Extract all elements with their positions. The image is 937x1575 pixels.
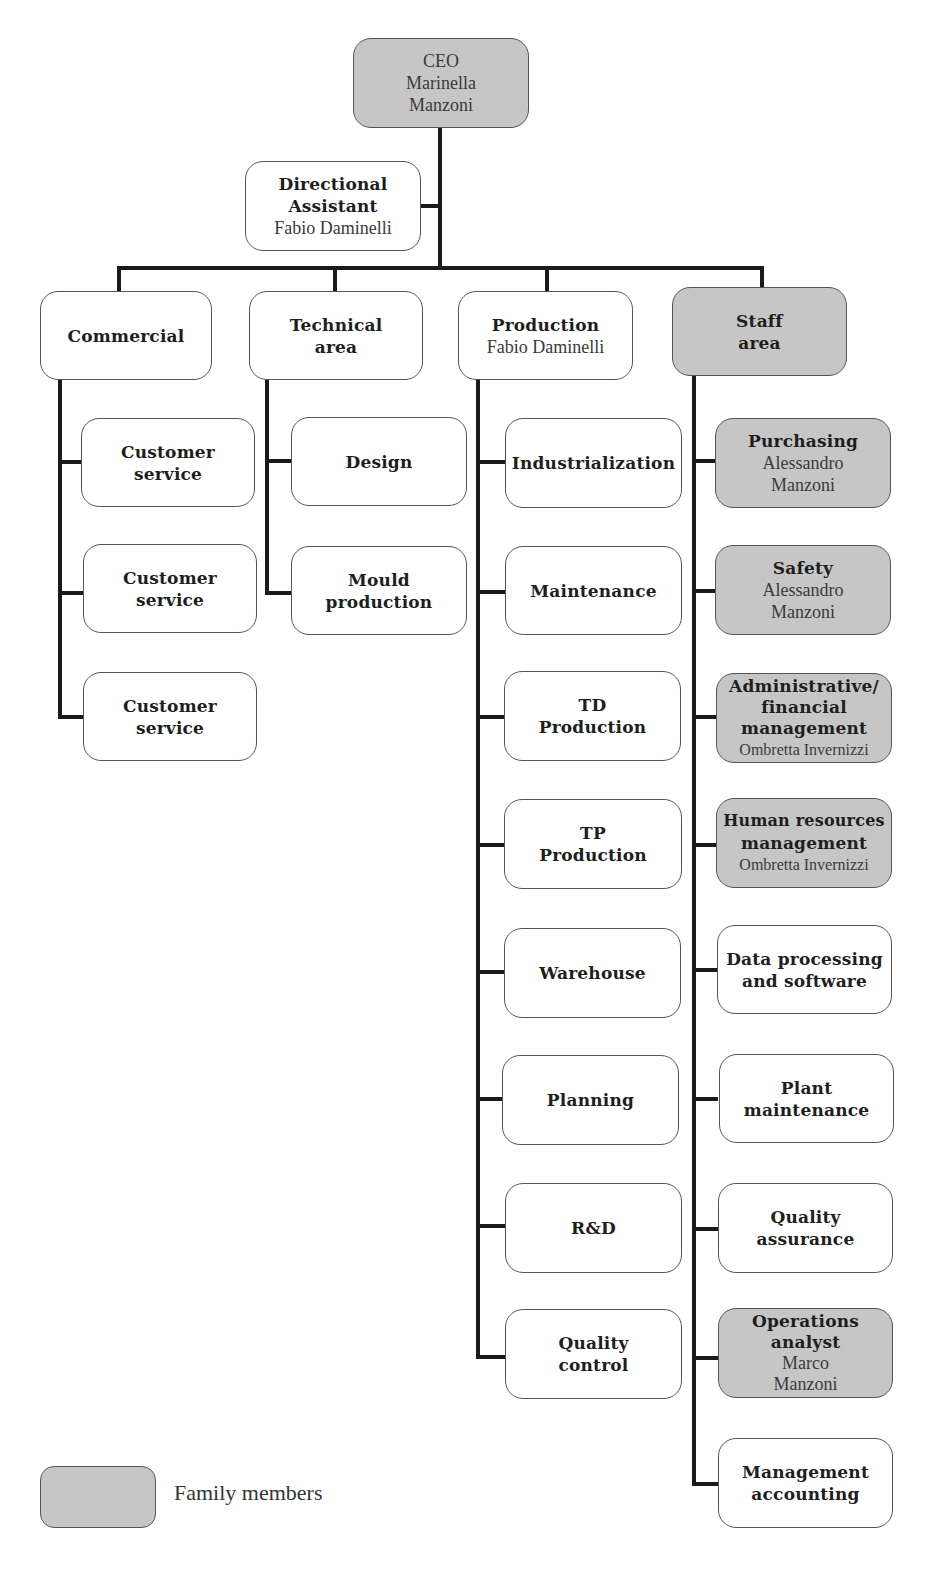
connector-production-spine (476, 378, 480, 1359)
connector-ceo-trunk (438, 127, 442, 270)
connector-staff-spine (692, 374, 696, 1486)
connector-production-child-7 (476, 1224, 505, 1228)
connector-technical-spine (265, 378, 269, 595)
production-title: Production (492, 314, 600, 336)
node-title-line2: analyst (771, 1332, 841, 1353)
connector-production-child-1 (476, 460, 505, 464)
node-title-line2: control (558, 1354, 628, 1376)
node-title-line2: production (326, 591, 433, 613)
node-warehouse: Warehouse (504, 928, 681, 1018)
connector-production-child-2 (476, 590, 505, 594)
node-r-and-d: R&D (505, 1183, 682, 1273)
node-customer-service-3: Customer service (83, 672, 257, 761)
connector-commercial-child-3 (58, 715, 84, 719)
node-title-line1: Design (345, 451, 412, 473)
connector-staff-child-5 (692, 968, 718, 972)
node-ceo: CEO Marinella Manzoni (353, 38, 529, 128)
connector-staff-child-6 (692, 1097, 718, 1101)
node-name-line2: Manzoni (771, 601, 835, 623)
production-name: Fabio Daminelli (487, 336, 604, 358)
staff-title-line1: Staff (736, 310, 783, 332)
node-name-line1: Alessandro (763, 579, 844, 601)
node-administrative-financial-management: Administrative/ financial management Omb… (716, 673, 892, 763)
node-title-line1: Customer (123, 567, 217, 589)
legend-family-label: Family members (174, 1480, 322, 1506)
connector-areas-bus (117, 266, 764, 270)
node-name-line2: Manzoni (771, 474, 835, 496)
connector-commercial-child-2 (58, 591, 84, 595)
connector-production-child-4 (476, 843, 505, 847)
node-name-line1: Marco (782, 1353, 829, 1374)
node-plant-maintenance: Plant maintenance (719, 1054, 894, 1143)
connector-assistant (420, 204, 440, 208)
node-purchasing: Purchasing Alessandro Manzoni (715, 418, 891, 508)
technical-title-line1: Technical (290, 314, 383, 336)
connector-staff-child-3 (692, 715, 716, 719)
node-title-line2: service (136, 717, 204, 739)
node-tp-production: TP Production (504, 799, 682, 889)
connector-staff-child-7 (692, 1227, 718, 1231)
connector-staff-child-8 (692, 1356, 718, 1360)
legend-family-swatch (40, 1466, 156, 1528)
node-name: Ombretta Invernizzi (739, 854, 868, 876)
node-title-line3: management (741, 718, 867, 739)
node-customer-service-1: Customer service (81, 418, 255, 507)
node-title-line1: TD (579, 694, 607, 716)
node-title-line1: Data processing (726, 948, 883, 970)
connector-staff-child-1 (692, 459, 716, 463)
node-title-line1: Warehouse (539, 962, 646, 984)
node-customer-service-2: Customer service (83, 544, 257, 633)
node-human-resources-management: Human resources management Ombretta Inve… (716, 798, 892, 888)
node-title: Safety (773, 557, 833, 579)
node-mould-production: Mould production (291, 546, 467, 635)
node-quality-assurance: Quality assurance (718, 1183, 893, 1273)
assistant-title-line2: Assistant (288, 195, 377, 217)
node-title-line1: TP (580, 822, 606, 844)
connector-technical-child-1 (265, 459, 291, 463)
node-title-line1: R&D (571, 1217, 616, 1239)
node-title-line1: Industrialization (512, 452, 675, 474)
node-operations-analyst: Operations analyst Marco Manzoni (718, 1308, 893, 1398)
node-td-production: TD Production (504, 671, 681, 761)
node-title-line2: maintenance (744, 1099, 870, 1121)
node-title-line1: Maintenance (530, 580, 656, 602)
connector-staff-child-9 (692, 1482, 718, 1486)
node-commercial: Commercial (40, 291, 212, 380)
connector-production-child-3 (476, 715, 505, 719)
node-name-line1: Alessandro (763, 452, 844, 474)
ceo-name-line1: Marinella (406, 72, 476, 94)
node-design: Design (291, 417, 467, 506)
connector-technical-drop (333, 266, 337, 292)
node-production: Production Fabio Daminelli (458, 291, 633, 380)
node-title-line2: accounting (751, 1483, 859, 1505)
node-name: Ombretta Invernizzi (739, 739, 868, 760)
assistant-name: Fabio Daminelli (274, 217, 391, 239)
node-title-line1: Operations (752, 1311, 859, 1332)
node-management-accounting: Management accounting (718, 1438, 893, 1528)
node-title-line2: and software (742, 970, 867, 992)
node-data-processing-and-software: Data processing and software (717, 925, 892, 1014)
connector-production-drop (545, 266, 549, 292)
node-industrialization: Industrialization (505, 418, 682, 508)
connector-staff-child-2 (692, 589, 716, 593)
connector-production-child-6 (476, 1097, 505, 1101)
connector-technical-child-2 (265, 591, 291, 595)
node-technical-area: Technical area (249, 291, 423, 380)
connector-production-child-8 (476, 1355, 505, 1359)
node-title-line2: Production (539, 716, 647, 738)
node-title-line1: Plant (781, 1077, 832, 1099)
connector-staff-child-4 (692, 843, 716, 847)
node-safety: Safety Alessandro Manzoni (715, 545, 891, 635)
connector-commercial-drop (117, 266, 121, 292)
node-directional-assistant: Directional Assistant Fabio Daminelli (245, 161, 421, 251)
connector-commercial-spine (58, 378, 62, 718)
node-title-line1: Planning (547, 1089, 634, 1111)
commercial-title: Commercial (68, 325, 185, 347)
connector-production-child-5 (476, 970, 505, 974)
connector-commercial-child-1 (58, 460, 82, 464)
node-planning: Planning (502, 1055, 679, 1145)
node-title-line2: Production (539, 844, 647, 866)
node-quality-control: Quality control (505, 1309, 682, 1399)
node-title-line2: service (136, 589, 204, 611)
assistant-title-line1: Directional (278, 173, 387, 195)
